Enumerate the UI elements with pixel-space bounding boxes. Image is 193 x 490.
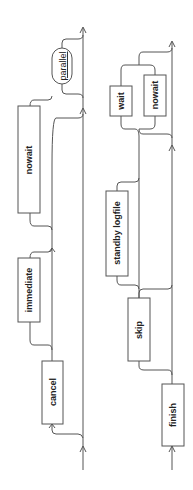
row-2: finish skip standby logfile wait nowait (106, 41, 184, 470)
cancel-label: cancel (48, 378, 58, 406)
standby-logfile-label: standby logfile (112, 201, 122, 265)
nowait-label-1: nowait (24, 146, 34, 175)
immediate-label: immediate (24, 268, 34, 313)
finish-label: finish (168, 403, 178, 427)
row-1: cancel immediate nowait parallel (18, 27, 86, 470)
wait-label: wait (116, 92, 126, 111)
railroad-diagram: Finish cancel immediate nowait parallel (0, 0, 193, 490)
parallel-label: parallel (58, 51, 68, 80)
skip-label: skip (134, 320, 144, 339)
nowait-label-2: nowait (150, 81, 160, 110)
